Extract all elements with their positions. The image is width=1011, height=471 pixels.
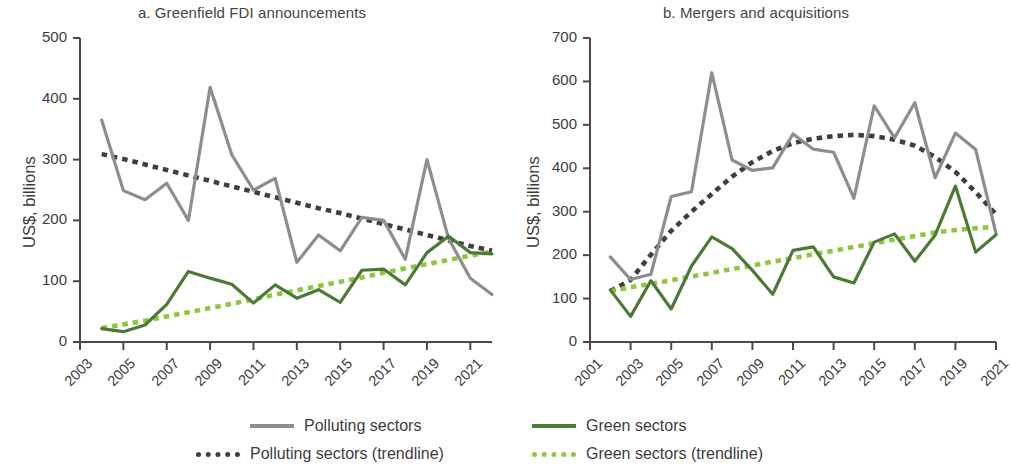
series-line-polluting-sectors-trendline [102, 154, 492, 251]
legend-swatch-polluting-trendline [196, 452, 240, 457]
legend-item-green-sectors: Green sectors [532, 412, 686, 440]
y-tick-label: 100 [21, 271, 67, 288]
chart-legend: Polluting sectors Green sectors Pollutin… [0, 408, 1008, 471]
series-line-green-sectors-trendline [610, 227, 996, 291]
panel-b-plot-area [504, 0, 1008, 405]
legend-swatch-polluting-sectors [250, 424, 294, 428]
panel-mergers-acquisitions: b. Mergers and acquisitions [504, 0, 1008, 405]
legend-swatch-green-trendline [532, 452, 576, 457]
legend-label-green-sectors: Green sectors [586, 418, 686, 434]
y-tick-label: 100 [531, 289, 577, 306]
panel-a-plot-area [0, 0, 504, 405]
legend-item-green-trendline: Green sectors (trendline) [532, 440, 763, 468]
y-tick-label: 0 [21, 332, 67, 349]
legend-row-solid: Polluting sectors Green sectors [0, 412, 1008, 440]
y-tick-label: 500 [531, 115, 577, 132]
y-tick-label: 600 [531, 71, 577, 88]
panel-greenfield-fdi: a. Greenfield FDI announcements [0, 0, 504, 405]
y-tick-label: 500 [21, 28, 67, 45]
legend-label-polluting-sectors: Polluting sectors [304, 418, 421, 434]
series-line-green-sectors [102, 236, 492, 331]
y-axis-label: US$, billions [20, 156, 39, 248]
y-tick-label: 0 [531, 332, 577, 349]
legend-row-trendline: Polluting sectors (trendline) Green sect… [0, 440, 1008, 468]
y-tick-label: 700 [531, 28, 577, 45]
y-axis-label: US$, billions [524, 156, 543, 248]
legend-label-polluting-trendline: Polluting sectors (trendline) [250, 446, 444, 462]
legend-item-polluting-sectors: Polluting sectors [250, 412, 421, 440]
legend-swatch-green-sectors [532, 424, 576, 428]
y-tick-label: 400 [21, 89, 67, 106]
legend-item-polluting-trendline: Polluting sectors (trendline) [196, 440, 444, 468]
legend-label-green-trendline: Green sectors (trendline) [586, 446, 763, 462]
